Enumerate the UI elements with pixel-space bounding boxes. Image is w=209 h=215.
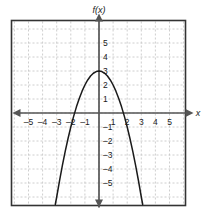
x-tick-label: 4 bbox=[153, 117, 158, 127]
graph-figure: –5–4–3–2–11234554321–1–2–3–4–5 f(x) x bbox=[0, 0, 209, 215]
x-axis-label: x bbox=[195, 108, 201, 118]
y-tick-label: –3 bbox=[103, 150, 113, 160]
y-tick-label: 2 bbox=[103, 80, 108, 90]
x-tick-label: –5 bbox=[24, 117, 34, 127]
y-tick-label: 1 bbox=[103, 94, 108, 104]
coordinate-plane-chart: –5–4–3–2–11234554321–1–2–3–4–5 f(x) x bbox=[0, 0, 209, 215]
x-tick-label: 5 bbox=[167, 117, 172, 127]
x-tick-label: –3 bbox=[52, 117, 62, 127]
y-tick-label: 5 bbox=[103, 38, 108, 48]
y-tick-label: –2 bbox=[103, 136, 113, 146]
y-tick-label: 4 bbox=[103, 52, 108, 62]
y-tick-label: –1 bbox=[103, 122, 113, 132]
x-tick-label: –1 bbox=[80, 117, 90, 127]
y-tick-label: –5 bbox=[103, 178, 113, 188]
x-tick-label: 3 bbox=[139, 117, 144, 127]
x-tick-label: –4 bbox=[38, 117, 48, 127]
y-axis-label: f(x) bbox=[93, 5, 106, 15]
y-tick-label: –4 bbox=[103, 164, 113, 174]
